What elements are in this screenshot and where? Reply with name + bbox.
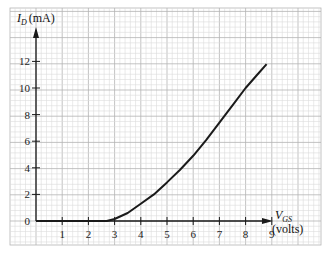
y-tick-label: 8	[25, 109, 31, 121]
y-tick-label: 2	[25, 188, 31, 200]
y-tick-label: 10	[19, 82, 31, 94]
x-tick-label: 6	[190, 228, 196, 240]
x-tick-label: 7	[217, 228, 223, 240]
x-tick-label: 1	[59, 228, 65, 240]
y-tick-label: 0	[25, 215, 31, 227]
y-tick-label: 6	[25, 135, 31, 147]
y-tick-label: 4	[25, 162, 31, 174]
x-axis-unit: (volts)	[272, 222, 303, 236]
x-tick-label: 8	[243, 228, 249, 240]
x-tick-label: 3	[112, 228, 118, 240]
chart: 123456789024681012 ID(mA) VGS (volts)	[0, 0, 331, 253]
x-tick-label: 4	[138, 228, 144, 240]
x-tick-label: 2	[86, 228, 92, 240]
y-tick-label: 12	[19, 55, 30, 67]
x-tick-label: 5	[164, 228, 170, 240]
